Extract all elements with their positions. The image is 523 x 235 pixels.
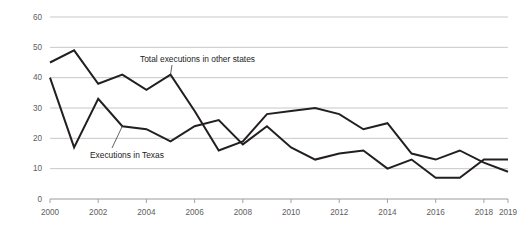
chart-canvas: 0102030405060 20002002200420062008201020…: [0, 0, 523, 235]
execution-trends-line-chart: 0102030405060 20002002200420062008201020…: [0, 0, 523, 235]
y-tick-label-40: 40: [33, 73, 43, 82]
y-tick-label-60: 60: [33, 13, 43, 22]
y-tick-label-10: 10: [33, 164, 43, 173]
x-axis-tick-labels: 2000200220042006200820102012201420162018…: [41, 208, 518, 217]
y-tick-label-30: 30: [33, 104, 43, 113]
y-tick-label-0: 0: [37, 195, 42, 204]
x-tick-label-2002: 2002: [89, 208, 108, 217]
annotation-label-other-states: Total executions in other states: [140, 54, 255, 64]
series-annotations-group: Total executions in other statesExecutio…: [90, 54, 255, 160]
annotation-leader-other-states: [171, 65, 173, 75]
x-tick-label-2016: 2016: [427, 208, 446, 217]
x-tick-label-2012: 2012: [330, 208, 349, 217]
y-tick-label-50: 50: [33, 43, 43, 52]
x-tick-label-2018: 2018: [475, 208, 494, 217]
x-tick-label-2006: 2006: [186, 208, 205, 217]
annotation-leader-texas: [112, 126, 122, 148]
annotation-label-texas: Executions in Texas: [90, 150, 164, 160]
x-tick-label-2014: 2014: [378, 208, 397, 217]
x-tick-label-2008: 2008: [234, 208, 253, 217]
gridlines-group: [50, 17, 508, 199]
x-tick-label-2019: 2019: [499, 208, 518, 217]
x-tick-label-2010: 2010: [282, 208, 301, 217]
series-line-texas: [50, 78, 508, 178]
y-tick-label-20: 20: [33, 134, 43, 143]
x-tick-label-2004: 2004: [137, 208, 156, 217]
x-axis-tick-marks: [50, 199, 508, 203]
x-tick-label-2000: 2000: [41, 208, 60, 217]
y-axis-tick-labels: 0102030405060: [33, 13, 43, 204]
